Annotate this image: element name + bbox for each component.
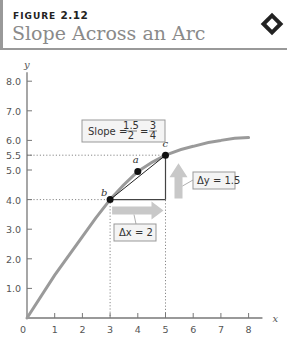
slope-equals: = — [140, 126, 148, 137]
slope-box: Slope =1.52=34 — [82, 120, 165, 142]
x-tick-label: 1 — [52, 324, 58, 335]
slope-den1: 2 — [128, 130, 134, 141]
x-tick-label: 0 — [20, 324, 26, 335]
y-tick-label: 6.0 — [6, 135, 21, 146]
chart: xy0123456781.02.03.04.05.05.56.07.08.0 a… — [0, 0, 287, 337]
x-tick-label: 4 — [135, 324, 141, 335]
y-tick-label: 3.0 — [6, 224, 21, 235]
point-label-a: a — [133, 154, 139, 165]
x-axis-label: x — [272, 313, 278, 324]
x-tick-label: 7 — [218, 324, 224, 335]
x-tick-label: 5 — [163, 324, 169, 335]
y-tick-label: 8.0 — [6, 76, 21, 87]
x-tick-label: 6 — [190, 324, 196, 335]
delta-x-box: Δx = 2 — [114, 215, 156, 241]
x-tick-label: 2 — [79, 324, 85, 335]
x-tick-label: 3 — [107, 324, 113, 335]
point-c — [162, 152, 169, 159]
point-a — [134, 168, 141, 175]
delta-x-leader — [134, 215, 136, 224]
x-tick-label: 8 — [246, 324, 252, 335]
delta-y-box: Δy = 1.5 — [183, 172, 241, 189]
axes: xy0123456781.02.03.04.05.05.56.07.08.0 — [6, 59, 278, 335]
annotations: Slope =1.52=34Δy = 1.5Δx = 2 — [82, 120, 240, 241]
y-axis-label: y — [23, 59, 30, 70]
y-tick-label: 5.0 — [6, 165, 21, 176]
delta-y-arrow — [170, 163, 188, 198]
delta-x-text: Δx = 2 — [119, 227, 153, 238]
y-tick-label: 5.5 — [6, 150, 21, 161]
delta-y-text: Δy = 1.5 — [197, 175, 240, 186]
points: abc — [101, 138, 169, 203]
y-tick-label: 1.0 — [6, 283, 21, 294]
slope-prefix: Slope = — [88, 126, 127, 137]
delta-arrows — [112, 163, 187, 219]
delta-x-arrow — [112, 202, 163, 220]
y-tick-label: 4.0 — [6, 195, 21, 206]
y-tick-label: 2.0 — [6, 254, 21, 265]
point-label-b: b — [101, 187, 107, 198]
y-tick-label: 7.0 — [6, 106, 21, 117]
point-b — [107, 196, 114, 203]
delta-y-leader — [183, 180, 194, 186]
slope-den2: 4 — [150, 130, 156, 141]
